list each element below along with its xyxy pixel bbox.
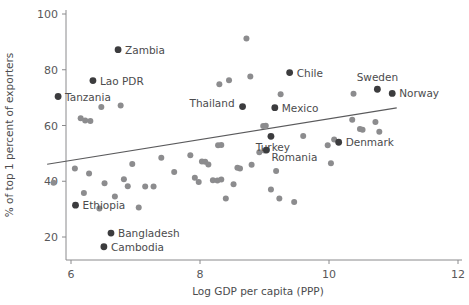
x-tick-label: 12 bbox=[451, 268, 465, 281]
data-point-labeled[interactable] bbox=[286, 69, 293, 76]
data-point-labeled[interactable] bbox=[374, 86, 381, 93]
data-point[interactable] bbox=[187, 152, 193, 158]
point-label: Thailand bbox=[188, 97, 234, 109]
data-point[interactable] bbox=[51, 180, 57, 186]
data-point[interactable] bbox=[231, 181, 237, 187]
data-point[interactable] bbox=[328, 160, 334, 166]
data-point-labeled[interactable] bbox=[263, 147, 270, 154]
data-point[interactable] bbox=[300, 133, 306, 139]
data-point[interactable] bbox=[136, 204, 142, 210]
data-point[interactable] bbox=[249, 162, 255, 168]
point-label: Mexico bbox=[282, 102, 319, 114]
data-point[interactable] bbox=[82, 117, 88, 123]
data-point[interactable] bbox=[86, 170, 92, 176]
chart-canvas: 20406080100681012Log GDP per capita (PPP… bbox=[0, 0, 469, 305]
data-point[interactable] bbox=[72, 165, 78, 171]
x-axis-title: Log GDP per capita (PPP) bbox=[192, 285, 324, 297]
data-point[interactable] bbox=[223, 196, 229, 202]
data-point[interactable] bbox=[196, 179, 202, 185]
data-point[interactable] bbox=[278, 91, 284, 97]
data-point[interactable] bbox=[376, 129, 382, 135]
data-point[interactable] bbox=[87, 118, 93, 124]
x-tick-label: 8 bbox=[197, 268, 204, 281]
point-label: Cambodia bbox=[111, 241, 164, 253]
data-point[interactable] bbox=[142, 184, 148, 190]
data-point[interactable] bbox=[121, 176, 127, 182]
x-tick-label: 6 bbox=[68, 268, 75, 281]
data-point[interactable] bbox=[360, 127, 366, 133]
point-label: Bangladesh bbox=[118, 227, 180, 239]
data-point-labeled[interactable] bbox=[90, 77, 97, 84]
data-point[interactable] bbox=[151, 184, 157, 190]
data-point-labeled[interactable] bbox=[271, 104, 278, 111]
data-point[interactable] bbox=[351, 91, 357, 97]
point-label: Romania bbox=[271, 151, 317, 163]
point-label: Tanzania bbox=[64, 91, 111, 103]
data-point[interactable] bbox=[129, 161, 135, 167]
data-point[interactable] bbox=[247, 73, 253, 79]
y-tick-label: 60 bbox=[44, 120, 58, 133]
data-point[interactable] bbox=[243, 36, 249, 42]
data-point-labeled[interactable] bbox=[389, 90, 396, 97]
data-point[interactable] bbox=[81, 190, 87, 196]
data-point-labeled[interactable] bbox=[55, 93, 62, 100]
data-point[interactable] bbox=[125, 183, 131, 189]
data-point[interactable] bbox=[268, 187, 274, 193]
data-point[interactable] bbox=[226, 77, 232, 83]
data-point[interactable] bbox=[276, 196, 282, 202]
data-point[interactable] bbox=[218, 177, 224, 183]
data-point[interactable] bbox=[218, 142, 224, 148]
trendline bbox=[47, 108, 397, 164]
data-point[interactable] bbox=[118, 102, 124, 108]
y-tick-label: 100 bbox=[37, 8, 58, 21]
data-point[interactable] bbox=[291, 199, 297, 205]
data-point-labeled[interactable] bbox=[239, 103, 246, 110]
data-point-labeled[interactable] bbox=[268, 133, 275, 140]
data-point[interactable] bbox=[349, 117, 355, 123]
scatter-plot-figure: 20406080100681012Log GDP per capita (PPP… bbox=[0, 0, 469, 305]
data-point[interactable] bbox=[158, 155, 164, 161]
point-label: Lao PDR bbox=[100, 75, 144, 87]
point-label: Sweden bbox=[357, 71, 399, 83]
data-point[interactable] bbox=[237, 165, 243, 171]
x-tick-label: 10 bbox=[322, 268, 336, 281]
data-point[interactable] bbox=[273, 168, 279, 174]
point-label: Chile bbox=[297, 67, 323, 79]
y-tick-label: 20 bbox=[44, 231, 58, 244]
point-label: Zambia bbox=[125, 44, 165, 56]
data-point-labeled[interactable] bbox=[72, 202, 79, 209]
data-point[interactable] bbox=[98, 104, 104, 110]
data-point[interactable] bbox=[216, 81, 222, 87]
data-point-labeled[interactable] bbox=[108, 230, 115, 237]
point-label: Denmark bbox=[346, 136, 395, 148]
data-point[interactable] bbox=[372, 119, 378, 125]
data-point[interactable] bbox=[102, 180, 108, 186]
data-point-labeled[interactable] bbox=[335, 139, 342, 146]
data-point-labeled[interactable] bbox=[115, 46, 122, 53]
y-axis-title: % of top 1 percent of exporters bbox=[3, 53, 15, 218]
point-label: Ethiopia bbox=[83, 199, 126, 211]
data-point[interactable] bbox=[325, 142, 331, 148]
data-point[interactable] bbox=[205, 162, 211, 168]
data-point-labeled[interactable] bbox=[100, 243, 107, 250]
data-point[interactable] bbox=[263, 123, 269, 129]
data-point[interactable] bbox=[171, 169, 177, 175]
y-tick-label: 80 bbox=[44, 64, 58, 77]
point-label: Norway bbox=[399, 87, 439, 99]
